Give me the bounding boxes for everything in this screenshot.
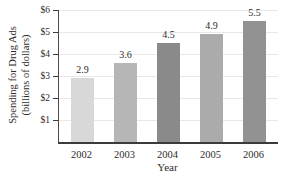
bar-value-label: 3.6 xyxy=(107,49,144,60)
bar-value-label: 4.9 xyxy=(193,20,230,31)
x-tick-label: 2004 xyxy=(149,149,186,160)
y-tick-label: $5 xyxy=(26,27,50,37)
bar-chart: Spending for Drug Ads (billions of dolla… xyxy=(0,0,282,174)
y-tick-label: $4 xyxy=(26,49,50,59)
x-axis-title: Year xyxy=(58,161,277,173)
bar-2003 xyxy=(114,63,137,142)
bar-value-label: 4.5 xyxy=(150,29,187,40)
y-tick-label: $3 xyxy=(26,71,50,81)
bar-2006 xyxy=(243,21,266,142)
plot-area: 2.93.64.54.95.5 xyxy=(58,10,278,144)
y-tick-label: $1 xyxy=(26,115,50,125)
x-tick-label: 2003 xyxy=(106,149,143,160)
bar-value-label: 5.5 xyxy=(236,7,273,18)
bar-2004 xyxy=(157,43,180,142)
y-tick-label: $6 xyxy=(26,5,50,15)
x-tick-label: 2002 xyxy=(63,149,100,160)
bar-value-label: 2.9 xyxy=(64,64,101,75)
x-tick-label: 2006 xyxy=(235,149,272,160)
y-axis-title-line1: Spending for Drug Ads xyxy=(6,8,19,142)
y-tick-label: $2 xyxy=(26,93,50,103)
x-tick-label: 2005 xyxy=(192,149,229,160)
bar-2002 xyxy=(71,78,94,142)
bar-2005 xyxy=(200,34,223,142)
